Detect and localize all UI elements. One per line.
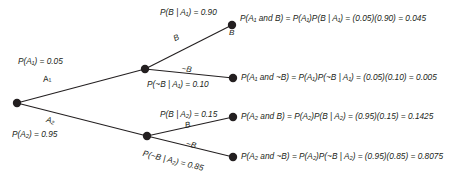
node-leaf-a2-b <box>229 113 237 121</box>
prob-label-b-given-a2: P(B | A₂) = 0.15 <box>160 110 217 118</box>
node-leaf-a1-not-b <box>229 74 237 82</box>
node-leaf-a2-not-b <box>229 153 237 161</box>
outcome-equation-a2-not-b: P(A₂ and ~B) = P(A₂)P(~B | A₂) = (0.95)(… <box>241 152 443 160</box>
node-root <box>13 99 21 107</box>
edge-label-a2: A₂ <box>45 116 55 126</box>
outcome-equation-a1-not-b: P(A₁ and ~B) = P(A₁)P(~B | A₁) = (0.05)(… <box>241 73 437 81</box>
node-a2 <box>143 132 151 140</box>
prob-label-a1: P(A₁) = 0.05 <box>18 57 63 65</box>
edge-a1-to-b <box>145 25 232 69</box>
edge-label-not-b-given-a1: ~B <box>181 65 192 74</box>
outcome-equation-a1-b: P(A₁ and B) = P(A₁)P(B | A₁) = (0.05)(0.… <box>240 14 426 22</box>
outcome-equation-a2-b: P(A₂ and B) = P(A₂)P(B | A₂) = (0.95)(0.… <box>241 112 433 120</box>
probability-tree-diagram: P(A₁) = 0.05 A₁ A₂ P(A₂) = 0.95 P(B | A₁… <box>0 0 465 182</box>
node-label-leaf-a1-b: B <box>229 29 234 37</box>
prob-label-a2: P(A₂) = 0.95 <box>12 130 57 138</box>
edge-root-to-a1 <box>17 69 145 103</box>
edge-label-a1: A₁ <box>42 75 51 85</box>
node-a1 <box>141 65 149 73</box>
prob-label-not-b-given-a1: P(~B | A₁) = 0.10 <box>147 80 209 88</box>
prob-label-b-given-a1: P(B | A₁) = 0.90 <box>160 8 217 16</box>
